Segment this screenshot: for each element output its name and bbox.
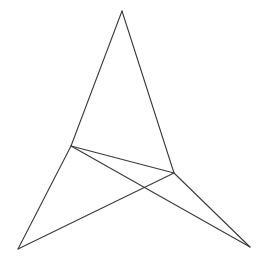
line-segment-left-middle-to-bottom-left: [18, 146, 71, 249]
geometric-figure-canvas: [0, 0, 267, 262]
line-segment-right-middle-to-bottom-left: [18, 173, 174, 249]
line-segment-left-middle-to-bottom-right: [71, 146, 250, 247]
line-segment-left-middle-to-right-middle: [71, 146, 174, 173]
line-segment-apex-to-right-middle: [122, 11, 174, 173]
line-segment-apex-to-left-middle: [71, 11, 122, 146]
figure-svg: [0, 0, 267, 262]
segments-group: [18, 11, 250, 249]
